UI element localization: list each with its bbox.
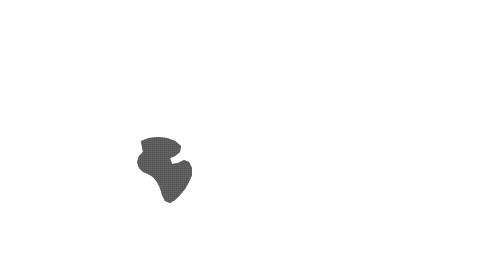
map-background (0, 0, 480, 270)
world-map-figure: World map with Brazil highlighted Grey w… (0, 0, 480, 270)
world-map-svg: World map with Brazil highlighted Grey w… (0, 0, 480, 270)
